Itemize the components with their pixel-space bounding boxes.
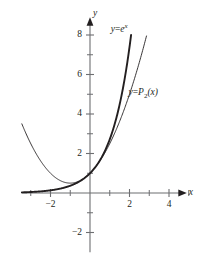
x-axis-label: x <box>189 188 193 198</box>
axes-layer <box>22 17 189 252</box>
y-tick-label: 6 <box>77 70 82 80</box>
y-tick-label: 8 <box>77 30 82 40</box>
curve-label-poly-arg: (x) <box>147 87 158 97</box>
x-tick-label: 2 <box>127 200 132 210</box>
x-tick-label: −2 <box>45 200 55 210</box>
curve-label-exp-exponent: x <box>125 22 128 30</box>
y-axis-label: y <box>93 9 97 19</box>
y-tick-label: 2 <box>77 149 82 159</box>
y-tick-label: −2 <box>72 228 82 238</box>
y-tick-label: 4 <box>77 109 82 119</box>
figure-exponential-vs-taylor-polynomial: y x y=ex y=P2(x) −2248642−2 <box>0 0 205 262</box>
x-axis-arrow <box>178 190 187 197</box>
x-tick-label: 4 <box>167 200 172 210</box>
curves-layer <box>22 35 147 192</box>
plot-canvas <box>0 0 205 262</box>
curve-label-polynomial: y=P2(x) <box>129 88 158 100</box>
curve-label-exponential: y=ex <box>111 23 128 35</box>
